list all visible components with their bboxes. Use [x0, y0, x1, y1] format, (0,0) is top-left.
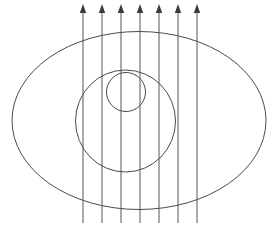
diagram-canvas [0, 0, 275, 229]
arrowhead-icon [80, 4, 86, 13]
closed-surfaces-group [12, 32, 266, 210]
field-lines-group [83, 12, 197, 223]
arrowheads-group [80, 4, 200, 13]
outer-ellipse [12, 32, 266, 210]
arrowhead-icon [137, 4, 143, 13]
arrowhead-icon [156, 4, 162, 13]
arrowhead-icon [118, 4, 124, 13]
arrowhead-icon [99, 4, 105, 13]
arrowhead-icon [194, 4, 200, 13]
field-diagram-svg [0, 0, 275, 229]
middle-ellipse [76, 70, 176, 172]
arrowhead-icon [175, 4, 181, 13]
